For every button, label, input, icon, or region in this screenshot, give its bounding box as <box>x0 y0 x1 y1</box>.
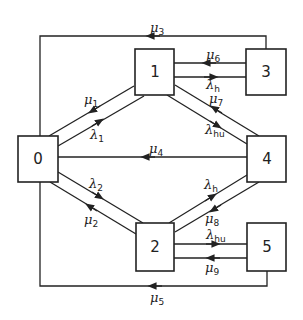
state-label-5: 5 <box>262 238 272 256</box>
state-label-1: 1 <box>150 63 160 81</box>
rate-label-mu6: μ6 <box>206 47 220 64</box>
rate-label-mu2: μ2 <box>84 212 98 229</box>
rate-label-lambda2: λ2 <box>88 176 103 193</box>
rate-label-mu4: μ4 <box>149 141 163 158</box>
state-label-4: 4 <box>262 150 272 168</box>
rate-label-mu5: μ5 <box>150 290 164 307</box>
rate-label-mu9: μ9 <box>205 260 219 277</box>
rate-label-mu3: μ3 <box>150 20 164 37</box>
rate-label-mu1: μ1 <box>84 92 98 109</box>
rate-label-lambda1: λ1 <box>89 127 104 144</box>
rate-label-mu7: μ7 <box>209 91 223 108</box>
rate-label-lambdah-2-4: λh <box>203 177 218 194</box>
state-label-2: 2 <box>150 238 160 256</box>
state-label-3: 3 <box>261 63 271 81</box>
rate-label-lambdahu-2-5: λhu <box>205 227 226 244</box>
state-transition-diagram: 0 1 3 4 2 5 μ3 μ6 λh μ1 λ1 μ7 λhu μ4 λ2 … <box>0 0 303 320</box>
edge-0-to-2-lambda2 <box>58 172 143 223</box>
rate-label-mu8: μ8 <box>205 211 219 228</box>
state-label-0: 0 <box>33 150 43 168</box>
